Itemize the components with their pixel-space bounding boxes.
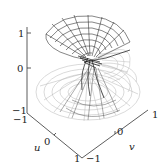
- v-tick-0: 0: [117, 126, 123, 137]
- u-tick-neg1: −1: [13, 114, 28, 125]
- u-tick-1: 1: [74, 153, 80, 164]
- surface-plot: 1 0 −1 −1 0 1 u −1 0 1 v: [0, 0, 166, 166]
- z-tick-1: 1: [18, 28, 24, 39]
- v-tick-neg1: −1: [86, 153, 101, 164]
- surface-front-mesh: [46, 15, 130, 60]
- v-axis-label: v: [129, 141, 135, 152]
- z-tick-0: 0: [17, 63, 23, 74]
- v-tick-1: 1: [152, 109, 158, 120]
- u-axis-label: u: [34, 142, 40, 153]
- u-tick-0: 0: [44, 136, 50, 147]
